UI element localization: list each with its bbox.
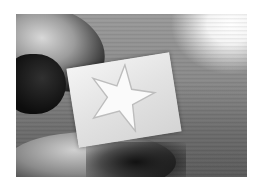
hand-shadow [86,142,186,177]
star-icon [81,59,163,139]
photo [16,14,247,177]
translucent-block [66,52,181,147]
